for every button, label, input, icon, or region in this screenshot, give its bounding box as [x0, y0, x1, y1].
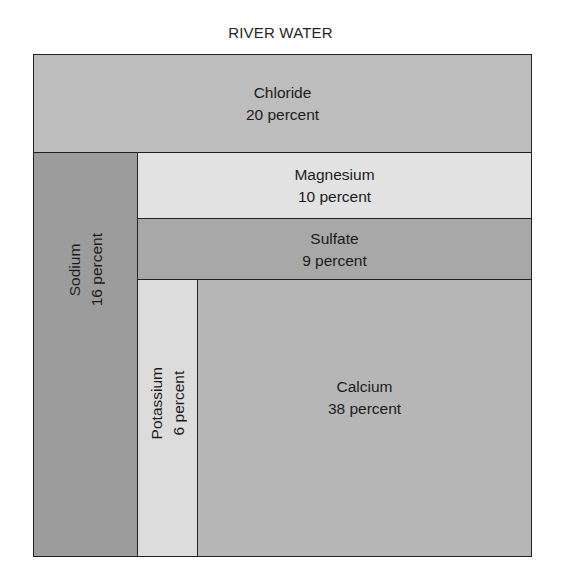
segment-magnesium: Magnesium 10 percent	[137, 152, 532, 220]
segment-chloride: Chloride 20 percent	[33, 54, 532, 154]
segment-magnesium-value: 10 percent	[294, 186, 374, 208]
segment-sodium-value: 16 percent	[86, 233, 108, 306]
segment-calcium-value: 38 percent	[328, 398, 401, 420]
chart-title: RIVER WATER	[0, 24, 561, 41]
segment-chloride-value: 20 percent	[246, 104, 319, 126]
segment-calcium: Calcium 38 percent	[197, 279, 532, 557]
segment-potassium: Potassium 6 percent	[137, 279, 199, 557]
segment-chloride-name: Chloride	[246, 82, 319, 104]
segment-sodium-name: Sodium	[64, 233, 86, 306]
segment-sulfate: Sulfate 9 percent	[137, 218, 532, 281]
segment-magnesium-name: Magnesium	[294, 164, 374, 186]
segment-potassium-value: 6 percent	[168, 367, 190, 439]
segment-sodium: Sodium 16 percent	[33, 152, 139, 557]
segment-calcium-name: Calcium	[328, 376, 401, 398]
segment-sulfate-name: Sulfate	[302, 228, 367, 250]
segment-sulfate-value: 9 percent	[302, 250, 367, 272]
segment-potassium-name: Potassium	[146, 367, 168, 439]
